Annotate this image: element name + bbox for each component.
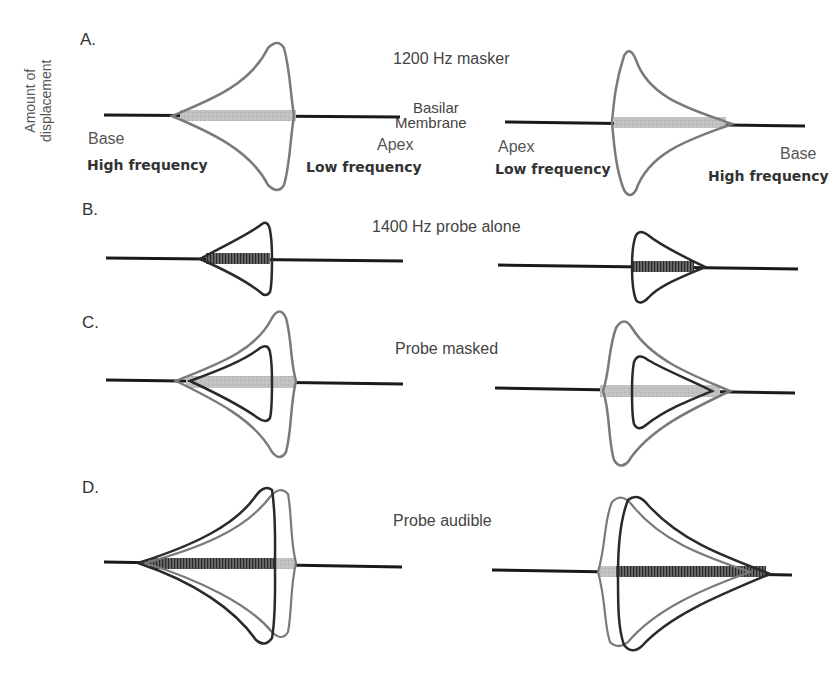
- panel-a-left-diagram: [104, 43, 400, 190]
- masker-excitation-band: [614, 117, 726, 128]
- basilar-membrane-diagram: [0, 0, 840, 675]
- panel-c-right-diagram: [495, 322, 795, 466]
- masker-excitation-band: [180, 110, 296, 121]
- probe-excitation-band: [632, 261, 694, 272]
- panel-b-right-diagram: [498, 232, 798, 302]
- panel-d-left-diagram: [104, 488, 402, 643]
- panel-b-left-diagram: [106, 223, 403, 295]
- probe-excitation-band: [150, 558, 275, 569]
- panel-a-right-diagram: [505, 51, 805, 195]
- panel-c-left-diagram: [106, 312, 403, 458]
- panel-d-right-diagram: [492, 497, 792, 650]
- probe-excitation-band: [206, 253, 270, 264]
